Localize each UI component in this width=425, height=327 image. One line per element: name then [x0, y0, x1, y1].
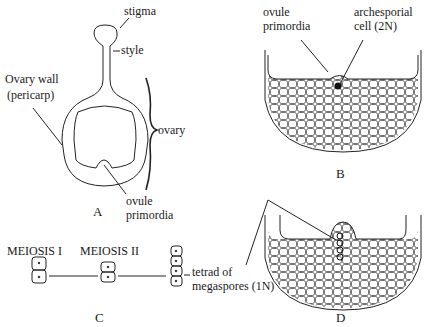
label-ovule-a-1: ovule [126, 195, 153, 208]
label-ovary-wall: Ovary wall [5, 73, 59, 86]
panel-label-d: D [336, 311, 345, 324]
panel-label-a: A [93, 205, 102, 218]
label-ovule-b-2: primordia [263, 20, 310, 33]
label-tetrad-1: tetrad of [192, 266, 232, 279]
label-pericarp: (pericarp) [7, 89, 54, 102]
label-ovule-a-2: primordia [126, 209, 173, 222]
label-archesporial-2: cell (2N) [354, 20, 397, 33]
label-ovary: ovary [158, 124, 185, 137]
label-tetrad-2: megaspores (1N) [192, 280, 274, 293]
panel-label-b: B [336, 167, 345, 180]
label-stigma: stigma [124, 5, 156, 18]
label-style: style [121, 44, 144, 57]
label-ovule-b-1: ovule [263, 6, 290, 19]
ovule-tissue-d [246, 200, 425, 315]
ovule-tissue-b [260, 40, 425, 155]
label-meiosis-1: MEIOSIS I [7, 245, 62, 258]
panel-label-c: C [95, 311, 104, 324]
label-archesporial-1: archesporial [354, 6, 413, 19]
label-meiosis-2: MEIOSIS II [80, 245, 139, 258]
